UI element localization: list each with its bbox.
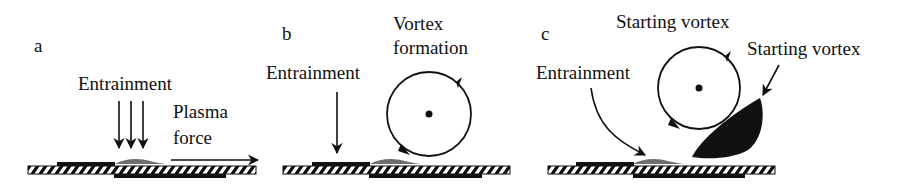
- lower-electrode: [633, 174, 745, 178]
- diagram-canvas: a Entrainment Plasma force b Entrainment…: [0, 0, 899, 191]
- vortex-formation-label-line1: Vortex: [393, 13, 444, 34]
- plasma-region: [115, 159, 168, 164]
- panel-label-a: a: [34, 35, 43, 56]
- starting-vortex-arrow-icon: [763, 65, 779, 95]
- vortex-icon: [658, 47, 740, 129]
- dielectric-plate: [283, 166, 510, 174]
- upper-electrode: [312, 162, 370, 166]
- panel-b: b Entrainment Vortex formation: [266, 13, 510, 178]
- plasma-region: [370, 159, 423, 164]
- entrainment-label: Entrainment: [266, 62, 361, 83]
- vortex-icon: [387, 72, 471, 156]
- plasma-force-label-line2: force: [173, 127, 212, 148]
- plasma-force-label-line1: Plasma: [173, 101, 228, 122]
- panel-label-c: c: [541, 23, 549, 44]
- vortex-formation-label-line2: formation: [393, 37, 468, 58]
- entrainment-label: Entrainment: [536, 62, 631, 83]
- dielectric-plate: [548, 166, 775, 174]
- plasma-region: [633, 159, 686, 164]
- lower-electrode: [369, 174, 482, 178]
- entrainment-curved-arrow-icon: [591, 88, 645, 155]
- actuator-plate-a: [28, 159, 256, 178]
- starting-vortex-label-1: Starting vortex: [616, 11, 730, 32]
- actuator-plate-b: [283, 159, 510, 178]
- panel-label-b: b: [282, 23, 292, 44]
- dielectric-plate: [28, 166, 256, 174]
- entrainment-label: Entrainment: [78, 73, 173, 94]
- upper-electrode: [57, 162, 115, 166]
- actuator-plate-c: [548, 159, 775, 178]
- panel-a: a Entrainment Plasma force: [28, 35, 258, 178]
- upper-electrode: [576, 162, 634, 166]
- panel-c: c Entrainment Starting vortex Starting v…: [536, 11, 861, 178]
- starting-vortex-label-2: Starting vortex: [747, 38, 861, 59]
- entrainment-arrows-icon: [119, 101, 143, 148]
- lower-electrode: [114, 174, 226, 178]
